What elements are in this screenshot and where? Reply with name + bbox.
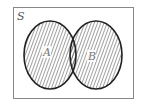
universe-label: S xyxy=(17,10,25,23)
venn-diagram: S A B xyxy=(0,0,144,110)
set-a-label: A xyxy=(42,46,51,59)
set-b-label: B xyxy=(87,50,96,63)
